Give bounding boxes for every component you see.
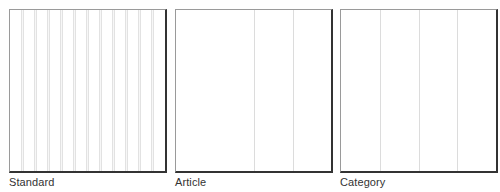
grid-column-gutter bbox=[86, 10, 89, 171]
layout-label-category: Category bbox=[340, 176, 385, 188]
layout-preview-standard[interactable] bbox=[9, 9, 167, 173]
layout-label-article: Article bbox=[175, 176, 206, 188]
grid-column-gutter bbox=[73, 10, 76, 171]
grid-column-gutter bbox=[34, 10, 37, 171]
layout-preview-category[interactable] bbox=[340, 9, 498, 173]
grid-column-divider bbox=[457, 10, 458, 171]
layout-option-category[interactable]: Category bbox=[340, 9, 498, 189]
layout-preview-article[interactable] bbox=[175, 9, 333, 173]
layout-option-article[interactable]: Article bbox=[175, 9, 333, 189]
grid-column-divider bbox=[380, 10, 381, 171]
grid-column-gutter bbox=[21, 10, 24, 171]
grid-column-divider bbox=[254, 10, 255, 171]
grid-column-gutter bbox=[151, 10, 154, 171]
grid-column-gutter bbox=[47, 10, 50, 171]
grid-column-gutter bbox=[60, 10, 63, 171]
layout-option-standard[interactable]: Standard bbox=[9, 9, 167, 189]
grid-column-divider bbox=[419, 10, 420, 171]
layout-label-standard: Standard bbox=[9, 176, 54, 188]
grid-column-gutter bbox=[125, 10, 128, 171]
grid-column-gutter bbox=[99, 10, 102, 171]
grid-column-divider bbox=[293, 10, 294, 171]
grid-column-gutter bbox=[138, 10, 141, 171]
grid-column-gutter bbox=[112, 10, 115, 171]
